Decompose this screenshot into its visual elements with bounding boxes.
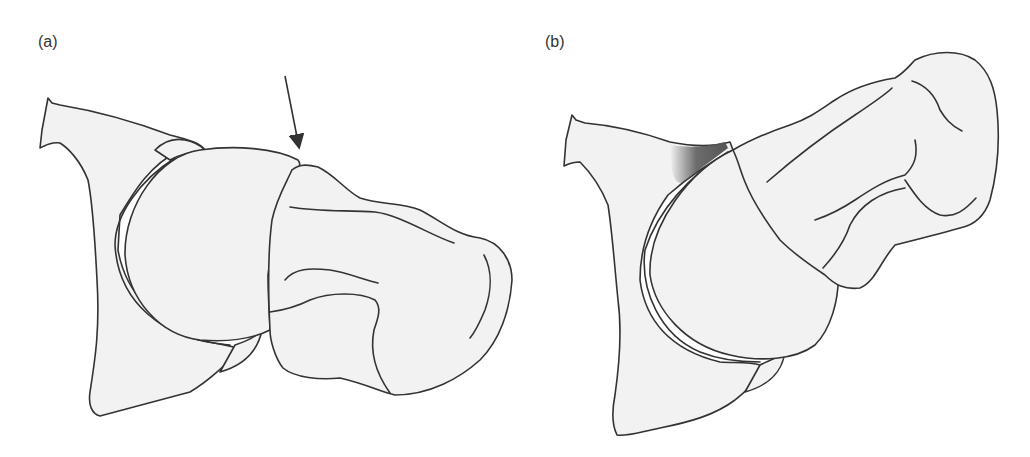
diagram-canvas: [0, 0, 1030, 457]
humerus-shaft-a: [269, 165, 512, 395]
panel-b: [564, 53, 998, 436]
arrow-indicator-a: [285, 76, 298, 142]
panel-a: [40, 76, 512, 416]
